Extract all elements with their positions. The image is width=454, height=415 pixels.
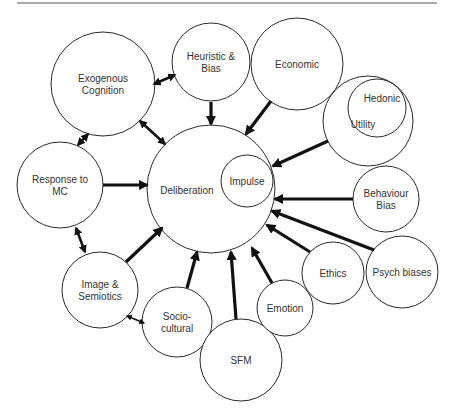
node-psych: Psych biases (366, 236, 438, 308)
node-label: Image & (81, 279, 119, 290)
arrow-response-to-image (76, 228, 85, 252)
arrow-sfm-to-deliberation (231, 252, 236, 319)
node-label: Behaviour (363, 188, 409, 199)
node-label: Emotion (267, 303, 304, 314)
node-label: Psych biases (373, 267, 432, 278)
node-response: Response toMC (17, 142, 103, 228)
node-image: Image &Semiotics (62, 252, 138, 328)
node-label: Heuristic & (187, 51, 236, 62)
node-ethics: Ethics (302, 242, 364, 304)
nodes-layer: ExogenousCognitionHeuristic &BiasEconomi… (17, 18, 438, 401)
arrow-exogenous-to-response (78, 134, 88, 145)
arrow-image-to-socio (127, 316, 144, 323)
node-label: Hedonic (364, 93, 401, 104)
node-label: Impulse (229, 176, 264, 187)
arrow-image-to-deliberation (126, 228, 162, 262)
arrow-utility-to-deliberation (273, 141, 328, 166)
node-label: Economic (275, 59, 319, 70)
arrow-emotion-to-deliberation (252, 248, 272, 283)
node-label: cultural (161, 323, 193, 334)
node-label: Exogenous (78, 73, 128, 84)
node-label: MC (52, 186, 68, 197)
node-label: Socio- (163, 311, 191, 322)
node-label: SFM (230, 355, 251, 366)
node-emotion: Emotion (257, 280, 313, 336)
node-heuristic: Heuristic &Bias (172, 23, 250, 101)
node-label: Response to (32, 174, 89, 185)
node-label: Semiotics (78, 291, 121, 302)
node-label: Cognition (82, 85, 124, 96)
node-label: Bias (201, 63, 220, 74)
arrow-exogenous-to-deliberation (140, 121, 165, 144)
arrow-economic-to-deliberation (246, 101, 271, 134)
node-label: Ethics (319, 268, 346, 279)
arrow-exogenous-to-heuristic (154, 75, 175, 84)
arrow-ethics-to-deliberation (267, 225, 310, 252)
node-socio: Socio-cultural (142, 287, 212, 357)
node-economic: Economic (251, 18, 343, 110)
concept-diagram: ExogenousCognitionHeuristic &BiasEconomi… (0, 0, 454, 415)
node-deliberation: Deliberation (147, 125, 275, 253)
node-label: Deliberation (160, 185, 213, 196)
arrow-socio-to-deliberation (187, 252, 197, 288)
node-behaviour: BehaviourBias (353, 166, 419, 232)
node-label: Utility (351, 119, 375, 130)
node-exogenous: ExogenousCognition (51, 32, 155, 136)
node-label: Bias (376, 200, 395, 211)
